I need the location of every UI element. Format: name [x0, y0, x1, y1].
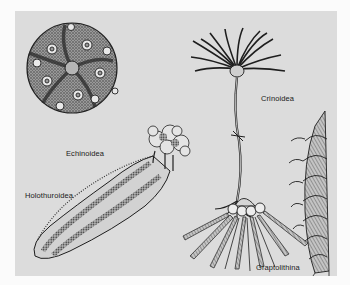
label-holothuroidea: Holothuroidea [25, 191, 73, 200]
label-crinoidea: Crinoidea [261, 94, 294, 103]
label-graptolithina: Graptolithina [256, 263, 300, 272]
crinoidea-drawing [191, 28, 285, 218]
label-echinoidea: Echinoidea [66, 149, 104, 158]
echinoidea-drawing [27, 23, 118, 113]
illustration-plate: Echinoidea Crinoidea Holothuroidea Grapt… [15, 11, 337, 276]
specimen-drawings [15, 11, 337, 276]
graptolite-spiral-drawing [289, 111, 329, 276]
graptolithina-drawing [183, 199, 308, 272]
